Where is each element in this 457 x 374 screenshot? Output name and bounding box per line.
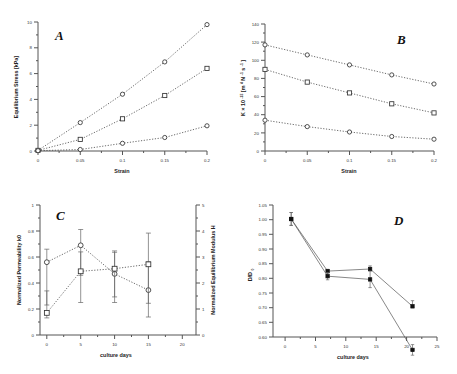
panel-a-series-2-line — [38, 68, 207, 150]
panel-b-ylabel-times: × — [240, 108, 246, 111]
panel-b-xtick-3: 0.15 — [387, 158, 396, 163]
panel-a-ytick-5: 10 — [27, 20, 32, 25]
panel-d-xtick-3: 15 — [374, 344, 379, 349]
panel-b-ylabel-unit-e3: -1 — [240, 63, 244, 66]
panel-b-ylabel-unit-s: s — [240, 68, 246, 71]
panel-c-xtick-0: 0 — [46, 342, 49, 347]
panel-b-ytick-1: 20 — [254, 131, 259, 136]
panel-a-xtick-4: 0.2 — [204, 158, 211, 163]
panel-c-ytick-4: 0.8 — [28, 229, 35, 234]
panel-c-plot: C 0 0.2 0.4 0.6 0.8 1 — [0, 187, 229, 374]
panel-b-x-ticks — [265, 151, 434, 155]
panel-d-xtick-0: 0 — [284, 344, 287, 349]
panel-d-xtick-4: 20 — [404, 344, 409, 349]
panel-d-xlabel: culture days — [337, 354, 369, 360]
panel-d-ytick-1: 0.65 — [258, 320, 267, 325]
panel-b-ytick-0: 0 — [257, 149, 260, 154]
panel-c-y-ticks-left — [36, 205, 40, 335]
panel-c-ytick-1: 0.2 — [28, 307, 35, 312]
panel-d-xtick-5: 25 — [435, 344, 440, 349]
panel-a-ytick-0: 0 — [30, 149, 33, 154]
panel-a: A 0 2 4 6 8 10 — [0, 0, 229, 187]
panel-d-ytick-0: 0.60 — [258, 335, 267, 340]
panel-d-ytick-2: 0.70 — [258, 305, 267, 310]
panel-c-xtick-4: 20 — [180, 342, 185, 347]
panel-d-ytick-3: 0.75 — [258, 291, 267, 296]
panel-a-xlabel: Strain — [114, 168, 129, 174]
panel-b-plot: B 0 20 40 60 80 100 120 140 — [229, 0, 457, 187]
panel-a-series-3-line — [38, 126, 207, 151]
panel-a-ytick-3: 6 — [30, 71, 33, 76]
svg-text:K × 10: K × 10 -15 [m 4 N -1 s -1 ] — [238, 60, 246, 116]
figure-container: A 0 2 4 6 8 10 — [0, 0, 457, 374]
panel-c-series-left-markers — [44, 243, 150, 293]
panel-c-ytick-r-3: 3 — [202, 255, 205, 260]
panel-b-xlabel: Strain — [341, 168, 356, 174]
panel-b-ytick-4: 80 — [254, 76, 259, 81]
panel-d-series-upper-markers — [290, 217, 415, 308]
panel-d-ytick-4: 0.80 — [258, 276, 267, 281]
panel-b-series-1-markers — [263, 43, 436, 86]
panel-c-series-left-errorbars — [44, 230, 151, 318]
panel-d-series-lower-errorbars — [290, 213, 415, 356]
panel-c-ytick-0: 0 — [32, 333, 35, 338]
panel-c-series-right-errorbars — [44, 233, 151, 318]
panel-a-ytick-4: 8 — [30, 45, 33, 50]
panel-a-ylabel: Equilibrium Stress [kPa] — [13, 56, 19, 119]
panel-c-x-ticks — [47, 335, 183, 339]
panel-b: B 0 20 40 60 80 100 120 140 — [229, 0, 457, 187]
panel-a-ytick-1: 2 — [30, 123, 33, 128]
panel-c-ylabel-left: Normalized Permeability k0 — [16, 235, 22, 305]
panel-b-ylabel-exp: -15 — [240, 94, 244, 99]
panel-d-ylabel: D/D 0 — [247, 269, 255, 282]
panel-b-ytick-7: 140 — [252, 22, 260, 27]
panel-c-xlabel: culture days — [100, 352, 132, 358]
panel-a-series-2-markers — [36, 66, 209, 152]
panel-b-xtick-1: 0.05 — [303, 158, 312, 163]
panel-c-ytick-r-1: 1 — [202, 307, 205, 312]
panel-b-ylabel-base: 10 — [240, 100, 246, 106]
panel-c-series-right-line — [47, 264, 149, 313]
panel-b-ylabel-unit-e2: -1 — [240, 72, 244, 75]
panel-d-letter: D — [393, 213, 404, 228]
panel-b-xtick-2: 0.1 — [346, 158, 353, 163]
panel-c: C 0 0.2 0.4 0.6 0.8 1 — [0, 187, 229, 374]
panel-c-y-ticks-right — [196, 205, 200, 335]
panel-d-x-ticks — [285, 337, 437, 341]
panel-a-xtick-1: 0.05 — [76, 158, 85, 163]
panel-b-ytick-5: 100 — [252, 58, 260, 63]
panel-d-ytick-7: 0.95 — [258, 232, 267, 237]
panel-d-xtick-1: 5 — [314, 344, 317, 349]
panel-d-ytick-5: 0.85 — [258, 261, 267, 266]
panel-c-ytick-r-0: 0 — [202, 333, 205, 338]
panel-d-ylabel-num: D/D — [247, 272, 253, 281]
panel-b-xtick-0: 0 — [264, 158, 267, 163]
panel-b-ylabel-unit-e1: 4 — [240, 82, 244, 84]
panel-d-ytick-8: 1.00 — [258, 217, 267, 222]
panel-c-ytick-r-4: 4 — [202, 229, 205, 234]
panel-a-xtick-2: 0.1 — [119, 158, 126, 163]
panel-d-xtick-2: 10 — [343, 344, 348, 349]
panel-c-ytick-5: 1 — [32, 203, 35, 208]
panel-b-ylabel-symbol: K — [240, 112, 246, 116]
panel-a-xtick-0: 0 — [37, 158, 40, 163]
panel-d-series-lower-markers — [290, 217, 415, 351]
panel-a-ytick-2: 4 — [30, 97, 33, 102]
panel-a-series-1-line — [38, 25, 207, 151]
panel-a-y-ticks — [34, 22, 38, 151]
panel-b-ylabel-unit-open: [m — [240, 85, 246, 92]
panel-c-xtick-2: 10 — [112, 342, 117, 347]
panel-c-ytick-2: 0.4 — [28, 281, 35, 286]
panel-b-ylabel-unit-n: N — [240, 77, 246, 81]
panel-d-ytick-9: 1.05 — [258, 203, 267, 208]
panel-b-ytick-6: 120 — [252, 40, 260, 45]
panel-b-ytick-2: 40 — [254, 112, 259, 117]
panel-c-ylabel-right: Normalized Equilibrium Modulus H — [210, 225, 216, 314]
panel-a-letter: A — [54, 28, 64, 43]
panel-c-ytick-3: 0.6 — [28, 255, 35, 260]
panel-d: D 0.60 0.65 0.70 0.75 0.80 0.85 0.90 0.9… — [229, 187, 457, 374]
panel-b-letter: B — [396, 32, 406, 47]
panel-b-ytick-3: 60 — [254, 94, 259, 99]
panel-c-xtick-3: 15 — [146, 342, 151, 347]
panel-c-series-left-line — [47, 245, 149, 290]
